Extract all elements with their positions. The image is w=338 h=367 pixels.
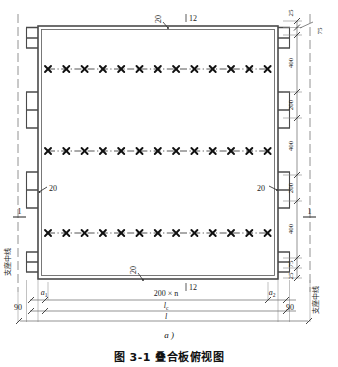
section-mark-left-label: 1 bbox=[18, 207, 22, 216]
support-centerline-left-label: 支座中线 bbox=[3, 248, 12, 276]
right-dim-75-leader bbox=[300, 22, 313, 28]
rebar-row-2 bbox=[45, 148, 271, 154]
right-dim-400-a: 400 bbox=[287, 57, 295, 68]
bottom-dim-chain-3: l bbox=[16, 312, 312, 324]
section-mark-left: 1 bbox=[13, 207, 26, 217]
bottom-dim-lc: lc bbox=[164, 301, 169, 311]
figure-caption: 图 3-1 叠合板俯视图 bbox=[0, 348, 338, 364]
bottom-dim-a2: a2 bbox=[269, 288, 276, 298]
right-dim-400-b: 400 bbox=[287, 140, 295, 151]
view-sublabel: a ) bbox=[0, 330, 338, 340]
bottom-edge-note-20: 20 bbox=[129, 266, 138, 274]
top-rebar-count-12: 12 bbox=[189, 14, 197, 23]
right-dim-75-top: 75 bbox=[316, 27, 324, 35]
bottom-dim-l-total: l bbox=[165, 312, 168, 321]
left-edge-rebar-hooks bbox=[26, 28, 38, 273]
right-dim-75-bottom: 75 bbox=[287, 260, 295, 268]
composite-slab-plan-drawing: 20 12 20 12 20 20 1 1 bbox=[0, 0, 338, 367]
right-dim-200-b: 200 bbox=[287, 182, 295, 193]
bottom-dim-90-left: 90 bbox=[14, 303, 22, 312]
bottom-dim-chain-1: a1 200 × n a2 bbox=[28, 288, 296, 303]
top-edge-note-20: 20 bbox=[154, 15, 163, 23]
figure-canvas: 20 12 20 12 20 20 1 1 bbox=[0, 0, 338, 367]
left-edge-note-20: 20 bbox=[49, 184, 57, 193]
right-dim-25-bottom: 25 bbox=[287, 272, 295, 280]
rebar-row-3 bbox=[45, 230, 271, 236]
right-dim-400-c: 400 bbox=[287, 223, 295, 234]
bottom-dim-200n: 200 × n bbox=[154, 289, 179, 298]
bottom-dim-90-right: 90 bbox=[286, 303, 294, 312]
right-edge-note-20: 20 bbox=[257, 184, 265, 193]
section-mark-right-label: 1 bbox=[308, 207, 312, 216]
rebar-row-1 bbox=[45, 66, 271, 72]
bottom-dim-a1: a1 bbox=[41, 288, 48, 298]
right-dimension-chain: 25 75 400 200 400 200 400 75 25 bbox=[283, 9, 324, 281]
support-centerline-right-label: 支座中线 bbox=[311, 286, 320, 314]
right-dim-200-a: 200 bbox=[287, 99, 295, 110]
right-edge-leader bbox=[269, 186, 278, 191]
bottom-rebar-count-12: 12 bbox=[189, 283, 197, 292]
bottom-dim-chain-2: 90 lc 90 bbox=[14, 301, 296, 314]
left-edge-leader bbox=[39, 187, 48, 193]
right-dim-25-top: 25 bbox=[287, 9, 295, 17]
section-mark-right: 1 bbox=[303, 207, 316, 217]
